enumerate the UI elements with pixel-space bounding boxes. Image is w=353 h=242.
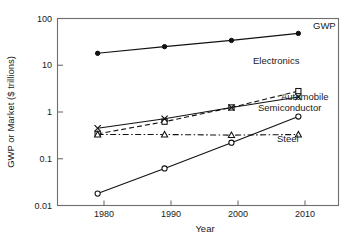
series-label-electronics: Electronics [253,55,300,66]
y-tick-label-0.01: 0.01 [34,201,52,211]
x-tick-label-2010: 2010 [295,209,315,219]
data-point-gwp-2010 [296,31,300,35]
y-tick-label-1: 1 [47,107,52,117]
chart-figure: 100 10 1 0.1 0.01 1980 1990 2000 2010 Ye… [0,0,353,242]
data-point-gwp-2000 [229,38,233,42]
y-axis-title: GWP or Market ($ trillions) [5,56,16,168]
series-label-steel: Steel [277,133,299,144]
data-point-semiconductor-1990 [162,166,167,171]
data-point-semiconductor-2000 [229,140,234,145]
series-label-automobile: Automobile [281,91,329,102]
series-label-semiconductor: Semiconductor [258,102,321,113]
log-line-chart: 100 10 1 0.1 0.01 1980 1990 2000 2010 Ye… [0,0,353,242]
series-label-gwp: GWP [313,20,336,31]
x-tick-label-1980: 1980 [94,209,114,219]
data-point-semiconductor-1980 [95,191,100,196]
x-axis-title: Year [195,223,214,234]
data-point-gwp-1990 [162,44,166,48]
data-point-gwp-1980 [95,51,99,55]
data-point-semiconductor-2010 [296,114,301,119]
y-tick-label-0.1: 0.1 [39,154,52,164]
x-tick-label-2000: 2000 [228,209,248,219]
y-tick-label-10: 10 [42,60,52,70]
x-tick-label-1990: 1990 [161,209,181,219]
y-tick-label-100: 100 [37,14,52,24]
